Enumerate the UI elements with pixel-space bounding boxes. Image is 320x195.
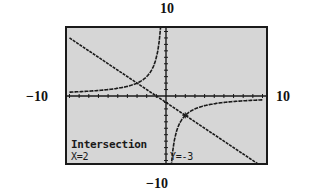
calculator-graph-screen: Intersection X=2 Y=-3 <box>65 26 268 165</box>
x-readout: X=2 <box>71 152 88 162</box>
y-readout: Y=-3 <box>170 152 193 162</box>
xmin-label: −10 <box>26 89 48 105</box>
intersection-title: Intersection <box>71 140 147 150</box>
xmax-label: 10 <box>276 89 290 105</box>
ymax-label: 10 <box>160 1 174 17</box>
ymin-label: −10 <box>146 176 168 192</box>
